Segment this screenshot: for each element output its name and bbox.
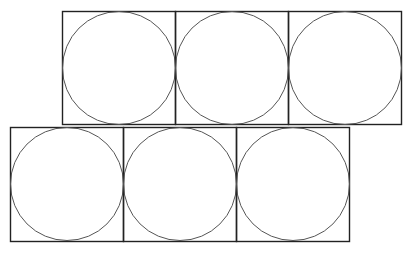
inscribed-circle — [289, 12, 402, 125]
square — [63, 12, 176, 125]
inscribed-circle — [176, 12, 289, 125]
inscribed-circle — [237, 128, 350, 241]
circles-in-squares-diagram — [0, 0, 410, 255]
square — [176, 12, 289, 125]
square — [289, 12, 402, 125]
inscribed-circle — [63, 12, 176, 125]
inscribed-circle — [11, 128, 124, 241]
inscribed-circle — [124, 128, 237, 241]
